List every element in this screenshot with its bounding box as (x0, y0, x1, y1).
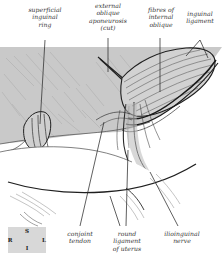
anatomical-figure: S I R L superficial inguinal ring extern… (0, 0, 222, 255)
compass-left-label: L (40, 237, 48, 243)
label-superficial-inguinal-ring: superficial inguinal ring (18, 6, 72, 28)
label-external-oblique-aponeurosis: external oblique aponeurosis (cut) (80, 2, 136, 32)
label-ilioinguinal-nerve: ilioinguinal nerve (156, 230, 208, 245)
compass-superior-label: S (21, 228, 33, 234)
compass-right-label: R (6, 237, 14, 243)
label-conjoint-tendon: conjoint tendon (58, 230, 102, 245)
label-inguinal-ligament: inguinal ligament (179, 10, 221, 25)
label-round-ligament-of-uterus: round ligament of uterus (104, 230, 150, 252)
label-fibres-of-internal-oblique: fibres of internal oblique (141, 6, 181, 28)
inguinal-region-drawing (0, 0, 222, 255)
compass-inferior-label: I (21, 245, 33, 251)
